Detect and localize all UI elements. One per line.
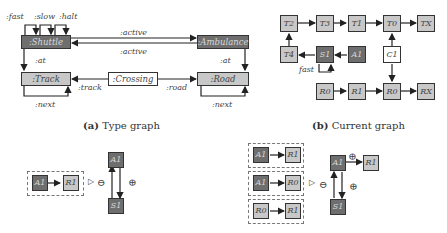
- edge-label-at-left: :at: [35, 57, 46, 65]
- rule-right-rhs-r1: R1: [363, 155, 379, 171]
- nac1-src: A1: [253, 147, 269, 163]
- nac2-dst: R0: [285, 175, 301, 191]
- edge-label-track: :track: [78, 84, 102, 92]
- node-rx: RX: [417, 83, 435, 100]
- nac3-src: R0: [253, 203, 269, 219]
- caption-tag-b: (b): [312, 120, 328, 131]
- edge-label-fast: :fast: [6, 13, 24, 21]
- edge-label-active-bottom: :active: [120, 48, 147, 56]
- rule-left-nac-a1: A1: [32, 175, 48, 191]
- node-c1: C1: [383, 46, 401, 63]
- edge-label-at-right: :at: [220, 57, 231, 65]
- rule-left-rhs-s1: S1: [108, 198, 124, 214]
- nac2-src: A1: [253, 175, 269, 191]
- node-crossing: :Crossing: [108, 72, 158, 86]
- edge-label-slow: :slow: [34, 13, 55, 21]
- node-t4: T4: [280, 46, 298, 63]
- node-a1: A1: [348, 46, 366, 63]
- rule-right-rhs-a1: A1: [330, 155, 346, 171]
- plus-circle-icon-edge: ⊕: [348, 152, 356, 162]
- caption-text-a: Type graph: [102, 120, 160, 131]
- node-tx: TX: [417, 15, 435, 32]
- edge-label-road: :road: [166, 84, 187, 92]
- plus-circle-icon-loop: ⊕: [349, 182, 357, 192]
- edge-label-active-top: :active: [120, 29, 147, 37]
- node-s1: S1: [316, 46, 334, 63]
- edge-label-next-left: :next: [35, 101, 55, 109]
- node-track: :Track: [21, 72, 71, 86]
- caption-current-graph: (b) Current graph: [312, 120, 405, 131]
- node-shuttle: :Shuttle: [21, 35, 71, 49]
- apply-triangle-icon-right: ▷: [309, 179, 315, 187]
- rule-left-rhs-a1: A1: [108, 152, 124, 168]
- edge-label-halt: :halt: [59, 13, 77, 21]
- node-r0-second: R0: [383, 83, 401, 100]
- node-t1: T1: [348, 15, 366, 32]
- minus-circle-icon-right: ⊖: [319, 180, 327, 190]
- caption-tag-a: (a): [83, 120, 99, 131]
- node-t3: T3: [316, 15, 334, 32]
- caption-type-graph: (a) Type graph: [83, 120, 160, 131]
- plus-circle-icon: ⊕: [128, 178, 136, 188]
- nac1-dst: R1: [285, 147, 301, 163]
- node-ambulance: :Ambulance: [197, 35, 249, 49]
- edge-label-next-right: :next: [212, 101, 232, 109]
- node-t0: T0: [383, 15, 401, 32]
- edge-label-fast-instance: fast: [299, 66, 314, 74]
- node-t2: T2: [280, 15, 298, 32]
- node-r0-first: R0: [316, 83, 334, 100]
- rule-left-nac-r1: R1: [63, 175, 79, 191]
- rule-right-rhs-s1: S1: [330, 199, 346, 215]
- node-r1: R1: [348, 83, 366, 100]
- minus-circle-icon: ⊖: [97, 178, 105, 188]
- nac3-dst: R1: [285, 203, 301, 219]
- caption-text-b: Current graph: [332, 120, 405, 131]
- apply-triangle-icon: ▷: [88, 178, 94, 186]
- node-road: :Road: [197, 72, 249, 86]
